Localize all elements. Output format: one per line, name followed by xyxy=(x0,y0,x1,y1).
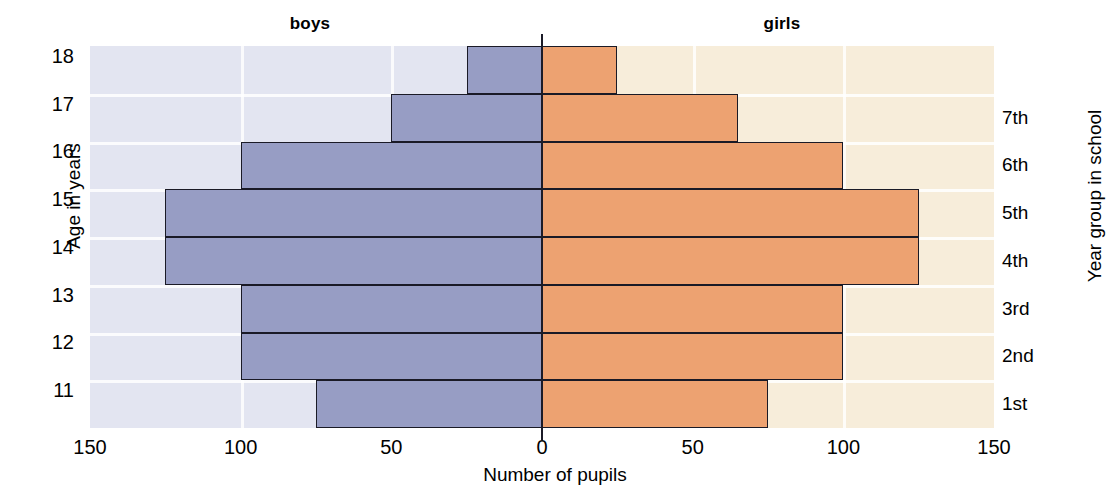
x-tick-3: 0 xyxy=(507,436,577,458)
bar-boys-age-13 xyxy=(241,285,542,333)
y-axis-title-right: Year group in school xyxy=(1084,81,1106,311)
y-tick-age-12: 12 xyxy=(28,332,74,352)
y-tick-year-4th: 4th xyxy=(1002,251,1056,270)
y-tick-age-18: 18 xyxy=(28,46,74,66)
x-tick-1: 100 xyxy=(206,436,276,458)
x-tick-2: 50 xyxy=(356,436,426,458)
bar-girls-age-16 xyxy=(542,142,843,190)
y-axis-title-left: Age in years xyxy=(63,96,85,296)
bar-girls-age-17 xyxy=(542,94,738,142)
x-tick-6: 150 xyxy=(959,436,1029,458)
y-tick-year-5th: 5th xyxy=(1002,203,1056,222)
series-label-girls: girls xyxy=(742,14,822,34)
bar-girls-age-11 xyxy=(542,380,768,428)
center-axis-line xyxy=(541,34,543,440)
bar-boys-age-14 xyxy=(165,237,542,285)
bar-girls-age-12 xyxy=(542,333,843,381)
y-tick-year-1st: 1st xyxy=(1002,394,1056,413)
bar-boys-age-12 xyxy=(241,333,542,381)
bar-boys-age-18 xyxy=(467,46,542,94)
plot-area xyxy=(90,46,994,428)
bar-boys-age-17 xyxy=(391,94,542,142)
bar-girls-age-14 xyxy=(542,237,919,285)
bar-boys-age-15 xyxy=(165,189,542,237)
bar-girls-age-15 xyxy=(542,189,919,237)
bar-girls-age-13 xyxy=(542,285,843,333)
bar-girls-age-18 xyxy=(542,46,617,94)
y-tick-year-6th: 6th xyxy=(1002,155,1056,174)
x-tick-4: 50 xyxy=(658,436,728,458)
x-axis-title: Number of pupils xyxy=(0,464,1110,486)
series-label-boys: boys xyxy=(270,14,350,34)
x-tick-5: 100 xyxy=(808,436,878,458)
y-tick-age-11: 11 xyxy=(28,380,74,400)
chart-canvas: boys girls 1817161514131211 7th6th5th4th… xyxy=(0,0,1110,504)
y-tick-year-7th: 7th xyxy=(1002,108,1056,127)
y-tick-year-3rd: 3rd xyxy=(1002,299,1056,318)
bar-boys-age-16 xyxy=(241,142,542,190)
bar-boys-age-11 xyxy=(316,380,542,428)
x-tick-0: 150 xyxy=(55,436,125,458)
y-tick-year-2nd: 2nd xyxy=(1002,346,1056,365)
